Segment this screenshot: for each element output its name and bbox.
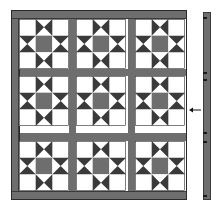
tick-marks [203, 12, 211, 200]
tick-mark [203, 17, 207, 19]
star-blocks [0, 0, 219, 211]
ohio-star-block [135, 76, 185, 126]
ohio-star-block [76, 141, 126, 191]
tick-mark [203, 72, 207, 74]
tick-mark [203, 141, 207, 143]
arrow-left-icon [189, 106, 202, 114]
ohio-star-block [135, 141, 185, 191]
tick-mark [203, 79, 207, 81]
ohio-star-block [76, 76, 126, 126]
ohio-star-block [19, 19, 69, 69]
ohio-star-block [19, 141, 69, 191]
tick-mark [203, 195, 207, 197]
ohio-star-block [19, 76, 69, 126]
tick-mark [203, 132, 207, 134]
ohio-star-block [135, 19, 185, 69]
placement-arrow [189, 100, 202, 108]
ohio-star-block [76, 19, 126, 69]
right-border-strip [203, 12, 211, 200]
quilt-diagram [0, 0, 219, 211]
